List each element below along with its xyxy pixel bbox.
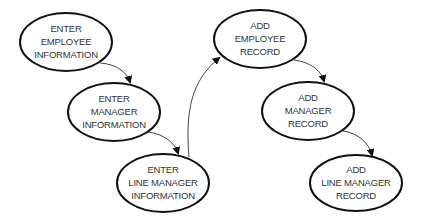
node-add-manager-record: ADD MANAGER RECORD (262, 82, 354, 140)
node-label-line: INFORMATION (34, 49, 98, 60)
node-label-line: ADD (298, 92, 318, 103)
node-enter-line-manager-information: ENTER LINE MANAGER INFORMATION (117, 154, 209, 212)
node-label-line: RECORD (336, 190, 376, 201)
node-label-line: EMPLOYEE (235, 33, 286, 44)
node-label-line: ENTER (147, 164, 179, 175)
node-label-line: ENTER (50, 23, 82, 34)
node-label-line: MANAGER (91, 106, 138, 117)
node-label-line: ADD (346, 164, 366, 175)
node-label-line: INFORMATION (82, 119, 146, 130)
node-label-line: LINE MANAGER (321, 177, 391, 188)
node-add-line-manager-record: ADD LINE MANAGER RECORD (310, 155, 402, 211)
node-label-line: LINE MANAGER (128, 177, 198, 188)
node-label-line: ENTER (98, 93, 130, 104)
node-label-line: MANAGER (285, 105, 332, 116)
node-label-line: EMPLOYEE (41, 36, 92, 47)
flow-diagram: ENTER EMPLOYEE INFORMATION ENTER MANAGER… (0, 0, 423, 223)
node-label-line: RECORD (240, 46, 280, 57)
edge-add-manager-to-add-line-manager (343, 131, 372, 155)
node-enter-employee-information: ENTER EMPLOYEE INFORMATION (20, 13, 112, 71)
node-enter-manager-information: ENTER MANAGER INFORMATION (68, 83, 160, 141)
edge-enter-employee-to-enter-manager (100, 63, 130, 82)
edge-enter-line-manager-to-add-employee (188, 58, 219, 157)
edge-add-employee-to-add-manager (294, 60, 324, 81)
node-label-line: RECORD (288, 118, 328, 129)
edge-enter-manager-to-enter-line-manager (148, 132, 178, 153)
node-label-line: INFORMATION (131, 190, 195, 201)
node-label-line: ADD (250, 20, 270, 31)
node-add-employee-record: ADD EMPLOYEE RECORD (214, 10, 306, 68)
